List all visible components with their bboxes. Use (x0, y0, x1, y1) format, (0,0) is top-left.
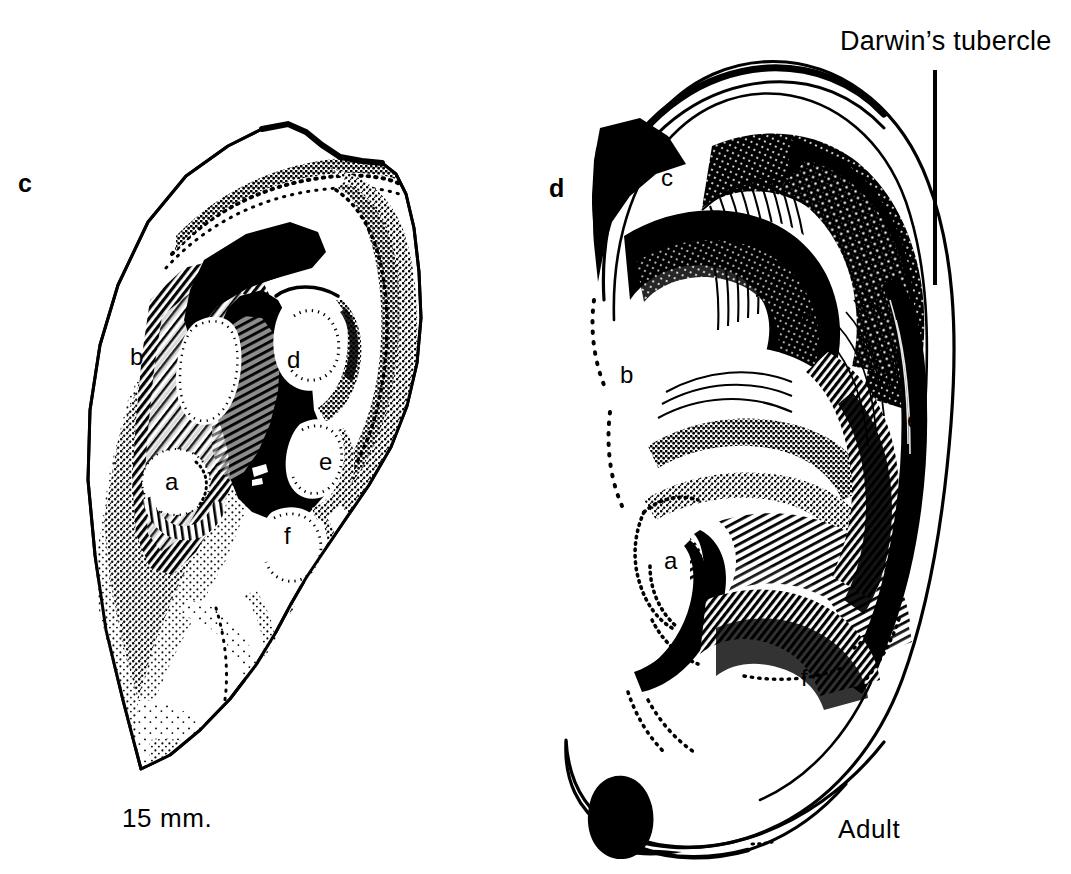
embryo-hillock-a-label: a (165, 470, 178, 494)
adult-auricle-drawing (566, 62, 954, 860)
adult-hillock-f-label: f (801, 666, 808, 690)
adult-hillock-e-label: e (907, 408, 920, 432)
darwins-tubercle-label: Darwin’s tubercle (840, 28, 1052, 55)
adult-hillock-c-label: c (661, 166, 673, 190)
figure-plate: Darwin’s tubercle c d a b c d e f a b c … (0, 0, 1071, 874)
anatomical-illustration (0, 0, 1071, 874)
panel-letter-c: c (18, 171, 32, 196)
embryo-hillock-d-label: d (287, 348, 300, 372)
panel-letter-d: d (549, 176, 564, 201)
adult-hillock-a-label: a (664, 549, 677, 573)
adult-hillock-b-label: b (620, 363, 633, 387)
embryo-hillock-c-label: c (255, 240, 267, 264)
embryo-hillock-f-label: f (284, 524, 291, 548)
adult-hillock-d-label: d (799, 303, 812, 327)
embryo-scale-caption: 15 mm. (122, 805, 212, 831)
embryo-auricle-drawing (88, 124, 421, 780)
embryo-hillock-e-label: e (319, 450, 332, 474)
adult-caption: Adult (838, 816, 900, 842)
embryo-hillock-b-label: b (130, 345, 143, 369)
